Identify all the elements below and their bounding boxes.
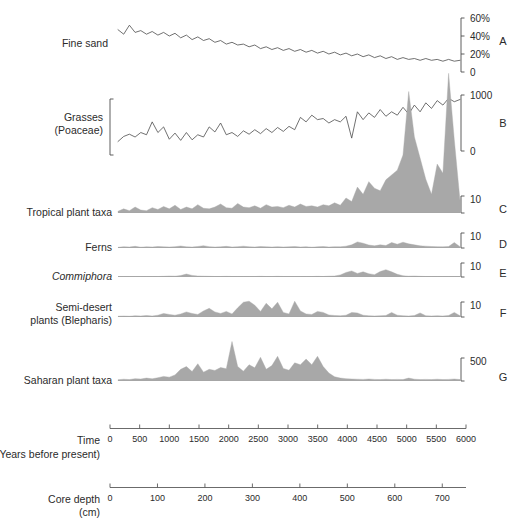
panel-g-label-line-1: Saharan plant taxa [24,374,112,386]
panel-g-saharan-plant-taxa: Saharan plant taxa 500 G [24,341,507,386]
panel-c-tropical-plant-taxa: Tropical plant taxa 10 C [27,73,507,218]
panel-a-label-line-1: Fine sand [62,37,108,49]
axis-tick-label: 3000 [278,434,298,444]
panel-f-label-line-2: plants (Blepharis) [30,314,112,326]
panel-letter-f: F [500,307,507,319]
panel-d-tick-10: 10 [470,231,482,242]
panel-f-tick-10: 10 [470,300,482,311]
depth-axis-title-line-2: (cm) [79,506,100,518]
stratigraphic-diagram: Fine sand 60% 40% 20% 0 A Grasses (Poace… [0,0,520,518]
axis-tick-label: 2000 [219,434,239,444]
panel-a-curve [118,25,460,61]
panel-b-tick-0: 0 [470,146,476,157]
panel-letter-d: D [499,238,507,250]
axis-tick-label: 100 [150,493,165,503]
panel-f-scale-bracket [461,302,465,317]
time-axis-tick-labels: 0500100015002000250030003500400045005000… [107,434,476,444]
panel-a-fine-sand: Fine sand 60% 40% 20% 0 A [62,13,507,78]
axis-tick-label: 1000 [159,434,179,444]
depth-axis-title-line-1: Core depth [48,493,100,505]
panel-d-ferns: Ferns 10 D [85,231,507,253]
panel-b-label-line-2: (Poaceae) [55,124,103,136]
axis-tick-label: 0 [107,434,112,444]
axis-tick-label: 4500 [367,434,387,444]
panel-g-area [118,341,460,380]
panel-letter-a: A [499,35,507,47]
panel-letter-b: B [499,117,506,129]
panel-e-commiphora: Commiphora 10 E [52,261,507,282]
panel-c-scale-bracket [461,196,465,213]
panel-d-scale-bracket [461,233,465,248]
panel-d-area [118,242,460,248]
axis-tick-label: 600 [387,493,402,503]
figure-canvas: Fine sand 60% 40% 20% 0 A Grasses (Poace… [0,0,520,518]
panel-c-area [118,73,460,212]
axis-tick-label: 200 [197,493,212,503]
panel-a-scale-bracket [461,18,465,72]
panel-e-scale-bracket [461,263,465,277]
panel-a-tick-0: 0 [470,67,476,78]
axis-tick-label: 6000 [456,434,476,444]
panel-b-label-line-1: Grasses [64,111,103,123]
panel-c-tick-10: 10 [470,194,482,205]
panel-f-label-line-1: Semi-desert [55,301,112,313]
time-axis-title-line-2: (Years before present) [0,448,100,460]
panel-e-label-line-1: Commiphora [52,270,112,282]
panel-b-scale-bracket [461,95,465,151]
panel-g-tick-500: 500 [470,356,487,367]
depth-axis-tick-labels: 0100200300400500600700 [107,493,449,503]
axis-tick-label: 4000 [337,434,357,444]
panel-d-label-line-1: Ferns [85,241,112,253]
panel-b-grasses: Grasses (Poaceae) 1000 0 B [55,90,507,157]
panel-a-tick-20: 20% [470,49,490,60]
panel-b-left-bracket [110,99,114,155]
axis-tick-label: 5500 [426,434,446,444]
depth-axis: 0100200300400500600700 Core depth (cm) [48,484,466,518]
panel-a-tick-40: 40% [470,31,490,42]
time-axis-title-line-1: Time [77,434,100,446]
panel-a-tick-60: 60% [470,13,490,24]
panel-b-tick-1000: 1000 [470,90,493,101]
time-axis: 0500100015002000250030003500400045005000… [0,425,476,461]
panel-f-semi-desert-plants: Semi-desert plants (Blepharis) 10 F [30,300,506,326]
panel-g-scale-bracket [461,358,465,381]
axis-tick-label: 700 [435,493,450,503]
panel-f-area [118,301,460,316]
axis-tick-label: 5000 [397,434,417,444]
panel-letter-g: G [499,371,508,383]
axis-tick-label: 500 [132,434,147,444]
axis-tick-label: 3500 [308,434,328,444]
depth-axis-ticks [110,484,442,488]
panel-letter-e: E [499,267,506,279]
axis-tick-label: 2500 [248,434,268,444]
panel-c-label-line-1: Tropical plant taxa [27,206,113,218]
axis-tick-label: 1500 [189,434,209,444]
panel-e-tick-10: 10 [470,261,482,272]
axis-tick-label: 400 [292,493,307,503]
axis-tick-label: 0 [107,493,112,503]
axis-tick-label: 300 [245,493,260,503]
panel-letter-c: C [499,203,507,215]
axis-tick-label: 500 [340,493,355,503]
time-axis-ticks [110,425,466,429]
panel-e-area [118,270,460,277]
